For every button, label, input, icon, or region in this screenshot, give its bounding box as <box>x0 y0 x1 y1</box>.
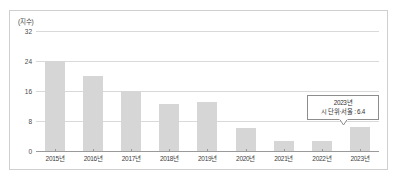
annotation-callout-line-2: 시 단위·서울 : 6.4 <box>310 107 376 116</box>
bar <box>45 61 65 151</box>
x-axis-tick-label: 2016년 <box>74 153 112 163</box>
bar <box>121 91 141 151</box>
x-axis-labels-group: 2015년2016년2017년2018년2019년2020년2021년2022년… <box>36 153 379 163</box>
x-axis-tick-mark <box>131 149 132 152</box>
x-axis-tick: 2018년 <box>150 153 188 163</box>
x-axis-tick-mark <box>55 149 56 152</box>
x-axis-tick-label: 2019년 <box>188 153 226 163</box>
annotation-pointer-icon <box>339 119 347 125</box>
x-axis-tick-label: 2023년 <box>341 153 379 163</box>
bar <box>350 127 370 151</box>
x-axis-tick-mark <box>284 149 285 152</box>
x-axis-tick: 2019년 <box>188 153 226 163</box>
bars-group <box>36 31 379 151</box>
x-axis-tick-label: 2017년 <box>112 153 150 163</box>
x-axis-tick-label: 2015년 <box>36 153 74 163</box>
y-axis-unit-label: (지수) <box>18 16 34 26</box>
x-axis-tick: 2022년 <box>303 153 341 163</box>
x-axis-tick-label: 2018년 <box>150 153 188 163</box>
bar-slot <box>74 31 112 151</box>
y-axis-tick-label: 24 <box>25 58 32 65</box>
bar <box>83 76 103 151</box>
bar-slot <box>112 31 150 151</box>
x-axis-tick: 2021년 <box>265 153 303 163</box>
x-axis-tick-label: 2020년 <box>227 153 265 163</box>
bar-slot <box>227 31 265 151</box>
y-axis-tick-label: 0 <box>28 148 32 155</box>
x-axis-tick-mark <box>246 149 247 152</box>
x-axis-tick-mark <box>322 149 323 152</box>
bar <box>236 128 256 151</box>
x-axis-tick: 2016년 <box>74 153 112 163</box>
bar <box>159 104 179 151</box>
x-axis-tick-label: 2022년 <box>303 153 341 163</box>
bar-slot <box>150 31 188 151</box>
x-axis-tick-mark <box>93 149 94 152</box>
bar-slot <box>341 31 379 151</box>
x-axis-tick-mark <box>207 149 208 152</box>
bar-slot <box>303 31 341 151</box>
plot-area: 08162432 <box>36 31 379 151</box>
x-axis-tick: 2020년 <box>227 153 265 163</box>
annotation-callout-line-1: 2023년 <box>310 98 376 107</box>
y-axis-tick-label: 32 <box>25 28 32 35</box>
annotation-callout: 2023년 시 단위·서울 : 6.4 <box>307 95 379 120</box>
x-axis-tick: 2017년 <box>112 153 150 163</box>
y-axis-tick-label: 8 <box>28 118 32 125</box>
bar-slot <box>36 31 74 151</box>
x-axis-tick-mark <box>169 149 170 152</box>
bar-slot <box>265 31 303 151</box>
chart-figure: (지수) 08162432 2015년2016년2017년2018년2019년2… <box>9 10 388 170</box>
x-axis-tick-label: 2021년 <box>265 153 303 163</box>
y-axis-tick-label: 16 <box>25 88 32 95</box>
bar-slot <box>188 31 226 151</box>
x-axis-tick-mark <box>360 149 361 152</box>
x-axis-tick: 2023년 <box>341 153 379 163</box>
bar <box>197 102 217 151</box>
x-axis-tick: 2015년 <box>36 153 74 163</box>
